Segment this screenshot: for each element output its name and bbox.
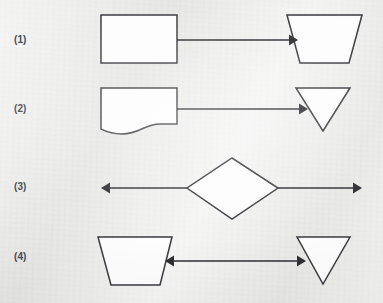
inverted-trapezoid-shape (287, 15, 362, 63)
trapezoid-shape (98, 237, 172, 285)
row-4-group (98, 237, 350, 285)
row-1-group (101, 15, 362, 63)
double-arrow-head-right (297, 256, 306, 267)
row-2-group (101, 88, 350, 134)
arrow-left-head (101, 183, 110, 194)
diamond-shape (187, 158, 278, 219)
document-shape (101, 88, 177, 134)
arrow-right-head (353, 183, 362, 194)
diagram-shapes-layer (0, 0, 383, 303)
rectangle-shape (101, 15, 177, 63)
row-3-group (101, 158, 362, 219)
diagram-canvas: (1) (2) (3) (4) (0, 0, 383, 303)
